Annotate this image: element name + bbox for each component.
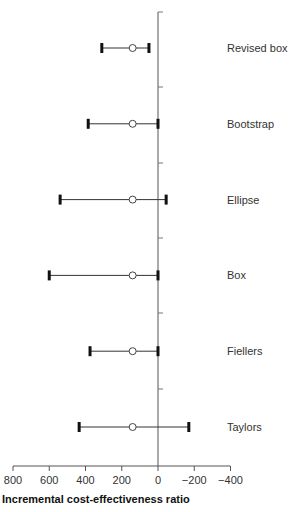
x-tick-label: −400	[218, 474, 243, 486]
row-label: Revised box	[227, 42, 288, 54]
point-estimate-marker	[129, 348, 136, 355]
x-tick-label: 600	[40, 474, 58, 486]
ci-upper-cap	[157, 119, 160, 129]
x-tick-label: 800	[4, 474, 22, 486]
point-estimate-marker	[129, 120, 136, 127]
point-estimate-marker	[129, 196, 136, 203]
row-label: Taylors	[227, 421, 262, 433]
x-tick-label: 200	[113, 474, 131, 486]
forest-plot: 8006004002000−200−400Incremental cost-ef…	[0, 0, 292, 512]
x-tick-label: −200	[182, 474, 207, 486]
point-estimate-marker	[129, 272, 136, 279]
row-label: Ellipse	[227, 194, 259, 206]
ci-lower-cap	[78, 422, 81, 432]
ci-lower-cap	[89, 346, 92, 356]
ci-upper-cap	[187, 422, 190, 432]
row-label: Bootstrap	[227, 118, 274, 130]
ci-upper-cap	[165, 195, 168, 205]
point-estimate-marker	[129, 424, 136, 431]
row-label: Box	[227, 269, 246, 281]
ci-upper-cap	[157, 270, 160, 280]
ci-upper-cap	[147, 43, 150, 53]
ci-lower-cap	[87, 119, 90, 129]
ci-upper-cap	[157, 346, 160, 356]
x-tick-label: 0	[155, 474, 161, 486]
ci-lower-cap	[100, 43, 103, 53]
point-estimate-marker	[129, 45, 136, 52]
x-tick-label: 400	[76, 474, 94, 486]
row-label: Fiellers	[227, 345, 263, 357]
ci-lower-cap	[48, 270, 51, 280]
ci-lower-cap	[59, 195, 62, 205]
x-axis-title: Incremental cost-effectiveness ratio	[2, 493, 190, 505]
